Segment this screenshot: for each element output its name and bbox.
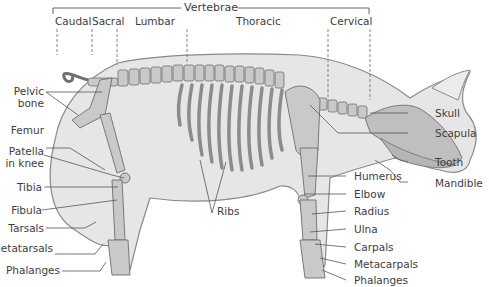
label-tooth: Tooth (435, 156, 463, 168)
region-thoracic: Thoracic (236, 15, 281, 27)
region-lumbar: Lumbar (135, 15, 175, 27)
label-patella: Patella in knee (5, 145, 44, 169)
vertebrae-title: Vertebrae (184, 2, 238, 14)
label-tarsals: Tarsals (8, 222, 44, 234)
label-fibula: Fibula (11, 204, 42, 216)
region-caudal: Caudal (55, 15, 91, 27)
region-cervical: Cervical (330, 15, 372, 27)
label-phalanges-hind: Phalanges (6, 264, 60, 276)
label-pelvic-line1: Pelvic (14, 85, 44, 97)
label-elbow: Elbow (354, 188, 385, 200)
label-ulna: Ulna (354, 223, 378, 235)
label-metacarpals: Metacarpals (354, 258, 418, 270)
label-carpals: Carpals (354, 241, 394, 253)
label-mandible: Mandible (435, 177, 483, 189)
label-tibia: Tibia (17, 181, 42, 193)
label-ribs: Ribs (217, 205, 239, 217)
label-metatarsals: Metatarsals (0, 242, 53, 254)
label-pelvic-bone: Pelvic bone (14, 85, 44, 109)
region-sacral: Sacral (92, 15, 125, 27)
label-femur: Femur (11, 124, 44, 136)
label-patella-line1: Patella (5, 145, 44, 157)
label-skull: Skull (435, 107, 460, 119)
tail (64, 74, 88, 82)
label-phalanges-fore: Phalanges (354, 274, 408, 286)
label-radius: Radius (354, 205, 389, 217)
label-pelvic-line2: bone (14, 97, 44, 109)
label-patella-line2: in knee (5, 157, 44, 169)
label-scapula: Scapula (435, 127, 477, 139)
pig-skeleton-illustration (0, 0, 489, 287)
label-humerus: Humerus (354, 170, 402, 182)
